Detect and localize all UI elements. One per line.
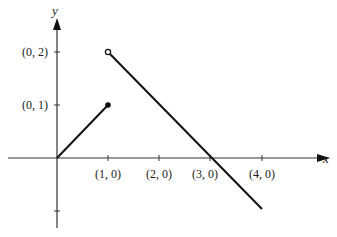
x-tick-label-4: (4, 0): [249, 167, 275, 181]
x-tick-label-3: (3, 0): [192, 167, 218, 181]
segment-1: [57, 105, 108, 158]
y-tick-label-1: (0, 1): [22, 98, 48, 112]
closed-point-icon: [105, 102, 111, 108]
x-tick-label-1: (1, 0): [95, 167, 121, 181]
segment-2: [110, 54, 262, 209]
open-point-icon: [105, 49, 110, 54]
y-axis-arrow-icon: [53, 18, 61, 30]
x-axis-label: x: [322, 151, 329, 166]
x-tick-label-2: (2, 0): [146, 167, 172, 181]
plot-canvas: x y (1, 0) (2, 0) (3, 0) (4, 0) (0, 1) (…: [0, 0, 337, 237]
y-axis-label: y: [50, 3, 58, 18]
y-tick-label-2: (0, 2): [22, 45, 48, 59]
piecewise-graph: x y (1, 0) (2, 0) (3, 0) (4, 0) (0, 1) (…: [0, 0, 337, 237]
